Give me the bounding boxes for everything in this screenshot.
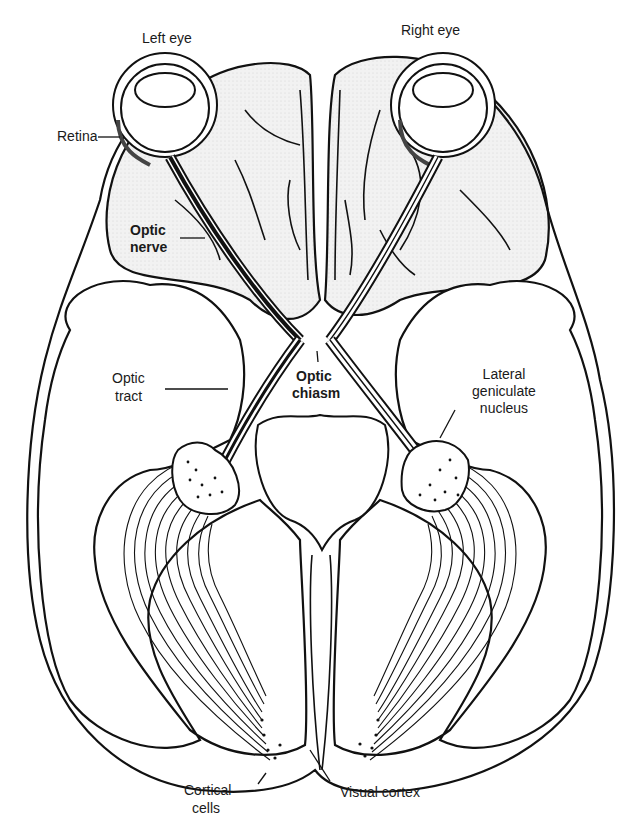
label-right-eye: Right eye [401,22,460,39]
label-optic-chiasm-line1: Optic [296,368,332,385]
label-optic-chiasm-line2: chiasm [292,385,340,402]
visual-pathway-diagram: Left eye Right eye Retina Optic nerve Op… [0,0,643,828]
label-optic-nerve-line2: nerve [130,239,167,256]
label-cortical-cells-line1: Cortical [184,782,231,799]
brain-illustration [0,0,643,828]
label-visual-cortex: Visual cortex [340,784,420,801]
label-lgn-line2: geniculate [464,383,544,400]
label-cortical-cells-line2: cells [192,800,220,817]
label-optic-tract-line2: tract [115,388,142,405]
right-hemisphere [334,281,602,755]
label-lgn-line1: Lateral [474,366,534,383]
label-optic-tract-line1: Optic [112,370,145,387]
label-left-eye: Left eye [142,30,192,47]
label-lgn-line3: nucleus [474,400,534,417]
label-optic-nerve-line1: Optic [130,222,166,239]
label-retina: Retina [57,128,97,145]
left-hemisphere [38,281,306,755]
